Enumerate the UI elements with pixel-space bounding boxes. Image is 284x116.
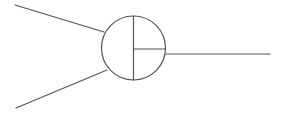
diagram-canvas [0,0,284,116]
input-line-top [15,5,104,32]
input-line-bottom [16,70,107,108]
